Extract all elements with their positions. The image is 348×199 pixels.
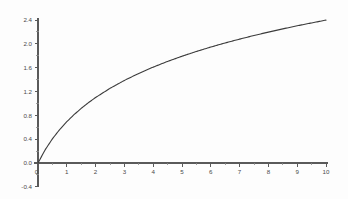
x-tick-label: 2 (94, 168, 98, 175)
y-tick-label: 1.2 (23, 88, 32, 95)
x-tick-label: 4 (151, 168, 155, 175)
x-axis-tick-labels: 123456789100 (35, 168, 330, 175)
x-axis-group: 123456789100 (34, 162, 330, 175)
y-tick-label: 2.0 (23, 40, 32, 47)
y-tick-label: 2.4 (23, 16, 32, 23)
x-tick-label: 8 (267, 168, 271, 175)
y-tick-label: 0.4 (23, 135, 32, 142)
chart-canvas: -0.40.00.40.81.21.62.02.4 123456789100 (0, 0, 348, 199)
x-tick-label: 7 (238, 168, 242, 175)
chart-figure: -0.40.00.40.81.21.62.02.4 123456789100 (0, 0, 348, 199)
data-series-line (38, 20, 326, 163)
y-tick-label: 1.6 (23, 64, 32, 71)
x-tick-label: 10 (323, 168, 330, 175)
x-tick-label-origin: 0 (35, 168, 39, 175)
x-tick-label: 1 (65, 168, 69, 175)
y-tick-label: 0.8 (23, 112, 32, 119)
x-tick-label: 6 (209, 168, 213, 175)
y-axis-group: -0.40.00.40.81.21.62.02.4 (21, 16, 39, 190)
y-tick-label: -0.4 (21, 183, 32, 190)
x-tick-label: 5 (180, 168, 184, 175)
x-tick-label: 9 (295, 168, 299, 175)
y-tick-label: 0.0 (23, 159, 32, 166)
series-group (38, 20, 326, 163)
x-tick-label: 3 (123, 168, 127, 175)
y-axis-tick-labels: -0.40.00.40.81.21.62.02.4 (21, 16, 32, 190)
